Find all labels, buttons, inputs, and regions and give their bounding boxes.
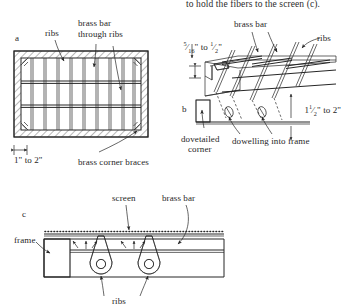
label-corner-braces: brass corner braces bbox=[78, 157, 149, 167]
panel-b-label: b bbox=[182, 104, 187, 114]
dimension-frame-width: 1" to 2" bbox=[14, 155, 43, 165]
depth-num: 1 bbox=[309, 103, 312, 110]
panel-c-label: c bbox=[22, 209, 26, 219]
label-brass-bar-b: brass bar bbox=[234, 19, 267, 29]
figure-root: to hold the fibers to the screen (c). bbox=[0, 0, 344, 308]
dimension-frame-depth: 11⁄2" to 2" bbox=[295, 95, 341, 125]
dimension-bar-thickness: 5⁄16" to 1⁄2" bbox=[174, 32, 222, 62]
depth-unit2: " bbox=[337, 105, 341, 115]
label-dowelling: dowelling into frame bbox=[232, 136, 309, 146]
thickness-to: to bbox=[198, 42, 210, 52]
label-dovetailed-line1: dovetailed bbox=[181, 134, 220, 144]
label-ribs-a: ribs bbox=[45, 28, 59, 38]
panel-c-drawing bbox=[36, 205, 224, 296]
line-art bbox=[0, 0, 344, 308]
depth-to: to bbox=[321, 105, 333, 115]
label-ribs-b: ribs bbox=[317, 33, 331, 43]
label-dovetailed-line2: corner bbox=[188, 144, 212, 154]
label-brass-bar-c: brass bar bbox=[162, 193, 195, 203]
label-brass-bar-a-line1: brass bar bbox=[78, 18, 111, 28]
panel-a-drawing bbox=[14, 40, 148, 155]
thickness-num2: 1 bbox=[210, 40, 213, 47]
panel-a-label: a bbox=[15, 33, 19, 43]
label-frame: frame bbox=[14, 235, 35, 245]
label-screen: screen bbox=[112, 193, 136, 203]
thickness-num1: 5 bbox=[183, 40, 186, 47]
label-ribs-c: ribs bbox=[112, 296, 126, 306]
thickness-unit2: " bbox=[218, 42, 222, 52]
label-brass-bar-a-line2: through ribs bbox=[78, 29, 123, 39]
